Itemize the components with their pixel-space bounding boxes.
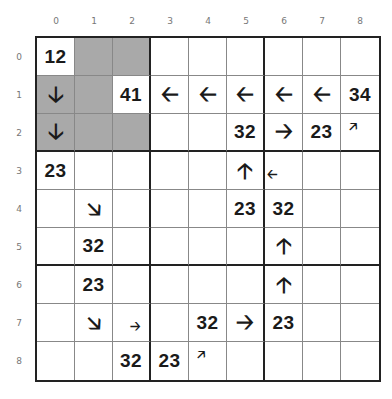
cell-number: 23 — [82, 274, 104, 296]
cell-number: 32 — [272, 198, 294, 220]
grid-cell-r7-c5[interactable]: 🡢 — [227, 304, 265, 342]
grid-cell-r6-c5[interactable] — [227, 266, 265, 304]
grid-cell-r7-c2[interactable]: 🡢 — [113, 304, 151, 342]
grid-cell-r4-c3[interactable] — [151, 190, 189, 228]
cell-number: 23 — [310, 121, 332, 143]
grid-cell-r0-c7[interactable] — [303, 38, 341, 76]
grid-cell-r2-c8[interactable]: 🡥 — [341, 114, 379, 152]
grid-cell-r4-c4[interactable] — [189, 190, 227, 228]
grid-cell-r1-c2[interactable]: 41 — [113, 76, 151, 114]
grid-cell-r2-c2[interactable] — [113, 114, 151, 152]
grid-cell-r8-c5[interactable] — [227, 342, 265, 380]
row-label: 6 — [14, 266, 24, 304]
grid-cell-r4-c1[interactable]: 🡦 — [75, 190, 113, 228]
grid-cell-r2-c7[interactable]: 23 — [303, 114, 341, 152]
grid-cell-r6-c8[interactable] — [341, 266, 379, 304]
grid-cell-r8-c4[interactable]: 🡥 — [189, 342, 227, 380]
grid-cell-r3-c4[interactable] — [189, 152, 227, 190]
grid-cell-r6-c4[interactable] — [189, 266, 227, 304]
grid-cell-r3-c2[interactable] — [113, 152, 151, 190]
arrow-right-icon: 🡢 — [275, 121, 293, 143]
grid-cell-r6-c6[interactable]: 🡡 — [265, 266, 303, 304]
grid-cell-r2-c3[interactable] — [151, 114, 189, 152]
grid-cell-r7-c6[interactable]: 23 — [265, 304, 303, 342]
grid-cell-r6-c2[interactable] — [113, 266, 151, 304]
arrow-up-icon: 🡡 — [237, 160, 253, 182]
grid-cell-r4-c5[interactable]: 23 — [227, 190, 265, 228]
grid-cell-r4-c2[interactable] — [113, 190, 151, 228]
grid-cell-r8-c0[interactable] — [37, 342, 75, 380]
arrow-up-right-icon: 🡥 — [349, 120, 357, 133]
grid-cell-r0-c8[interactable] — [341, 38, 379, 76]
grid-cell-r5-c5[interactable] — [227, 228, 265, 266]
grid-cell-r5-c3[interactable] — [151, 228, 189, 266]
grid-cell-r5-c7[interactable] — [303, 228, 341, 266]
grid-cell-r0-c6[interactable] — [265, 38, 303, 76]
grid-cell-r1-c6[interactable]: 🡠 — [265, 76, 303, 114]
grid-cell-r3-c5[interactable]: 🡡 — [227, 152, 265, 190]
grid-cell-r1-c7[interactable]: 🡠 — [303, 76, 341, 114]
grid-cell-r5-c1[interactable]: 32 — [75, 228, 113, 266]
grid-cell-r6-c1[interactable]: 23 — [75, 266, 113, 304]
grid-cell-r5-c6[interactable]: 🡡 — [265, 228, 303, 266]
grid-cell-r4-c0[interactable] — [37, 190, 75, 228]
grid-cell-r8-c7[interactable] — [303, 342, 341, 380]
grid-cell-r0-c4[interactable] — [189, 38, 227, 76]
grid-cell-r1-c4[interactable]: 🡠 — [189, 76, 227, 114]
grid-cell-r8-c6[interactable] — [265, 342, 303, 380]
column-label: 2 — [113, 16, 151, 26]
cell-number: 32 — [120, 350, 142, 372]
cell-number: 32 — [196, 312, 218, 334]
grid-cell-r1-c1[interactable] — [75, 76, 113, 114]
grid-cell-r3-c8[interactable] — [341, 152, 379, 190]
grid-cell-r2-c4[interactable] — [189, 114, 227, 152]
column-label: 3 — [151, 16, 189, 26]
grid-cell-r2-c6[interactable]: 🡢 — [265, 114, 303, 152]
grid-cell-r4-c7[interactable] — [303, 190, 341, 228]
grid-cell-r7-c0[interactable] — [37, 304, 75, 342]
grid-cell-r2-c0[interactable]: 🡣 — [37, 114, 75, 152]
grid-cell-r1-c3[interactable]: 🡠 — [151, 76, 189, 114]
grid-cell-r7-c1[interactable]: 🡦 — [75, 304, 113, 342]
grid-cell-r1-c8[interactable]: 34 — [341, 76, 379, 114]
grid-cell-r8-c8[interactable] — [341, 342, 379, 380]
arrow-down-icon: 🡣 — [48, 84, 64, 106]
grid-cell-r1-c0[interactable]: 🡣 — [37, 76, 75, 114]
grid-cell-r6-c0[interactable] — [37, 266, 75, 304]
grid-cell-r3-c1[interactable] — [75, 152, 113, 190]
grid-cell-r0-c1[interactable] — [75, 38, 113, 76]
grid-cell-r0-c5[interactable] — [227, 38, 265, 76]
grid-cell-r3-c6[interactable]: 🡠 — [265, 152, 303, 190]
grid-cell-r0-c0[interactable]: 12 — [37, 38, 75, 76]
arrow-right-icon: 🡢 — [130, 320, 141, 333]
grid-cell-r1-c5[interactable]: 🡠 — [227, 76, 265, 114]
grid-cell-r5-c4[interactable] — [189, 228, 227, 266]
column-label: 0 — [37, 16, 75, 26]
grid-cell-r5-c2[interactable] — [113, 228, 151, 266]
grid-cell-r7-c3[interactable] — [151, 304, 189, 342]
grid-cell-r8-c1[interactable] — [75, 342, 113, 380]
column-label: 7 — [303, 16, 341, 26]
grid-cell-r6-c7[interactable] — [303, 266, 341, 304]
grid-cell-r3-c0[interactable]: 23 — [37, 152, 75, 190]
arrow-left-icon: 🡠 — [161, 84, 179, 106]
column-label: 8 — [341, 16, 379, 26]
grid-cell-r7-c4[interactable]: 32 — [189, 304, 227, 342]
grid-cell-r8-c2[interactable]: 32 — [113, 342, 151, 380]
grid-cell-r2-c5[interactable]: 32 — [227, 114, 265, 152]
grid-cell-r3-c3[interactable] — [151, 152, 189, 190]
grid-cell-r8-c3[interactable]: 23 — [151, 342, 189, 380]
row-label: 3 — [14, 152, 24, 190]
grid-cell-r7-c8[interactable] — [341, 304, 379, 342]
grid-cell-r4-c6[interactable]: 32 — [265, 190, 303, 228]
grid-cell-r3-c7[interactable] — [303, 152, 341, 190]
grid-cell-r7-c7[interactable] — [303, 304, 341, 342]
grid-cell-r4-c8[interactable] — [341, 190, 379, 228]
arrow-up-icon: 🡡 — [276, 274, 292, 296]
grid-cell-r5-c0[interactable] — [37, 228, 75, 266]
grid-cell-r0-c2[interactable] — [113, 38, 151, 76]
grid-cell-r6-c3[interactable] — [151, 266, 189, 304]
grid-cell-r2-c1[interactable] — [75, 114, 113, 152]
grid-cell-r0-c3[interactable] — [151, 38, 189, 76]
grid-cell-r5-c8[interactable] — [341, 228, 379, 266]
